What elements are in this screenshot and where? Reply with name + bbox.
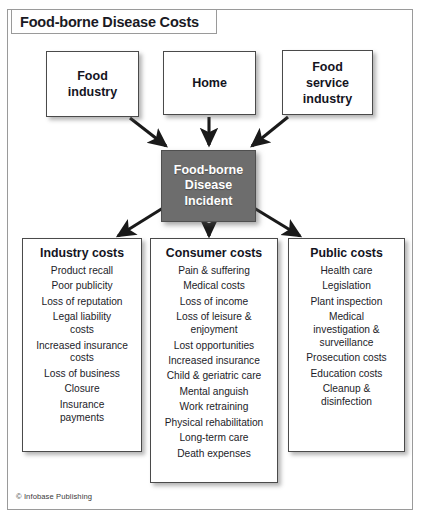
node-food-borne-disease-incident: Food-borne Disease Incident <box>161 150 256 222</box>
list-item: Physical rehabilitation <box>155 417 273 430</box>
list-item: Health care <box>293 265 400 278</box>
node-incident-label: Food-borne Disease Incident <box>174 163 243 209</box>
node-home-label: Home <box>192 75 227 91</box>
panel-consumer-costs: Consumer costs Pain & suffering Medical … <box>150 238 278 483</box>
list-item: Loss of business <box>27 368 137 381</box>
list-item: Mental anguish <box>155 386 273 399</box>
list-item: Education costs <box>293 368 400 381</box>
list-item: Work retraining <box>155 401 273 414</box>
list-item: Death expenses <box>155 448 273 461</box>
diagram-canvas: Food-borne Disease Costs Food industry H… <box>0 0 426 523</box>
page-title: Food-borne Disease Costs <box>20 14 199 30</box>
node-food-industry-label: Food industry <box>68 68 117 100</box>
list-item: Pain & suffering <box>155 265 273 278</box>
copyright-credit: © Infobase Publishing <box>16 492 92 501</box>
list-item: Loss of income <box>155 296 273 309</box>
node-home: Home <box>163 51 256 115</box>
panel-industry-costs-header: Industry costs <box>27 246 137 261</box>
list-item: Child & geriatric care <box>155 370 273 383</box>
list-item: Insurance payments <box>27 399 137 425</box>
list-item: Legislation <box>293 280 400 293</box>
list-item: Increased insurance <box>155 355 273 368</box>
list-item: Increased insurance costs <box>27 340 137 366</box>
list-item: Loss of leisure & enjoyment <box>155 311 273 337</box>
diagram-title-plate: Food-borne Disease Costs <box>11 9 217 34</box>
list-item: Medical investigation & surveillance <box>293 311 400 350</box>
list-item: Closure <box>27 383 137 396</box>
panel-public-costs: Public costs Health care Legislation Pla… <box>288 238 405 452</box>
list-item: Poor publicity <box>27 280 137 293</box>
list-item: Plant inspection <box>293 296 400 309</box>
node-food-service-industry: Food service industry <box>282 50 373 115</box>
panel-public-costs-header: Public costs <box>293 246 400 261</box>
node-food-service-industry-label: Food service industry <box>303 59 352 107</box>
list-item: Long-term care <box>155 432 273 445</box>
panel-consumer-costs-header: Consumer costs <box>155 246 273 261</box>
list-item: Lost opportunities <box>155 340 273 353</box>
list-item: Prosecution costs <box>293 352 400 365</box>
panel-industry-costs: Industry costs Product recall Poor publi… <box>22 238 142 452</box>
list-item: Legal liability costs <box>27 311 137 337</box>
list-item: Loss of reputation <box>27 296 137 309</box>
list-item: Medical costs <box>155 280 273 293</box>
list-item: Product recall <box>27 265 137 278</box>
list-item: Cleanup & disinfection <box>293 383 400 409</box>
node-food-industry: Food industry <box>46 51 139 117</box>
